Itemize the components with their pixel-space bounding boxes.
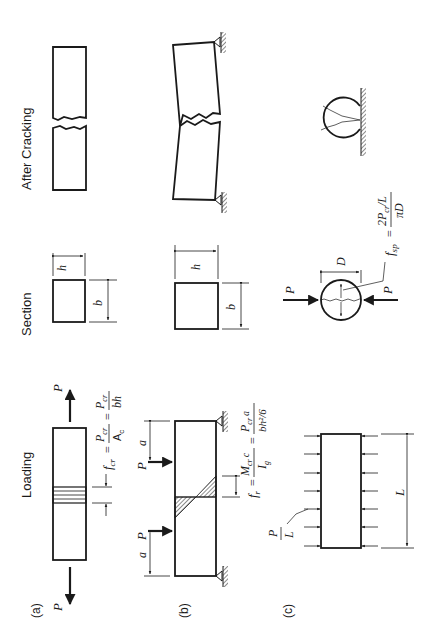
svg-text:Ig: Ig <box>255 461 271 470</box>
after-cracking-label: After Cracking <box>19 108 34 190</box>
split-cylinder-loading: L P L <box>266 434 414 548</box>
split-cylinder-cracked <box>321 88 366 156</box>
svg-text:Pcr: Pcr <box>93 427 109 443</box>
svg-text:bh: bh <box>110 396 124 408</box>
length-l-label: L <box>392 489 407 497</box>
load-p-label: P <box>380 286 395 295</box>
header-loading: Loading <box>19 452 34 498</box>
row-label-b: (b) <box>177 603 191 618</box>
svg-text:Ac: Ac <box>111 430 126 441</box>
svg-text:=: = <box>101 446 115 453</box>
load-p-label: P <box>282 286 297 295</box>
svg-text:Pcr: Pcr <box>93 394 109 410</box>
svg-text:πD: πD <box>392 203 406 218</box>
distributed-load-arrows-left <box>304 436 320 546</box>
section-label: Section <box>19 293 34 336</box>
row-label-a: (a) <box>29 603 43 618</box>
svg-text:Pcra: Pcra <box>238 411 254 433</box>
span-a-label: a <box>135 440 149 446</box>
header-after-cracking: After Cracking <box>19 108 34 190</box>
svg-text:(b): (b) <box>177 603 191 618</box>
flexure-loading-specimen: P P a a <box>134 411 240 587</box>
flexure-section: h b <box>175 245 249 329</box>
svg-text:(c): (c) <box>281 604 295 618</box>
svg-text:(a): (a) <box>29 603 43 618</box>
support-pin-top <box>214 32 226 53</box>
tension-equation: fcr = Pcr Ac = Pcr bh <box>93 391 126 470</box>
svg-text:=: = <box>246 479 260 486</box>
svg-text:bh²/6: bh²/6 <box>256 409 268 432</box>
split-cylinder-equation: fsp = 2Pcr/L πD <box>375 192 406 256</box>
section-a-h-label: h <box>55 265 69 271</box>
loading-label: Loading <box>19 452 34 498</box>
section-b-b-label: b <box>224 304 238 310</box>
figure-canvas: After Cracking Section Loading (a) (b) (… <box>0 0 421 638</box>
tension-cracked-specimen <box>53 47 86 190</box>
svg-text:fcr: fcr <box>100 458 117 470</box>
svg-text:P: P <box>266 529 280 538</box>
flexure-equation: fr = Mcrc Ig = Pcra bh²/6 <box>238 403 271 498</box>
svg-text:fr: fr <box>245 490 262 498</box>
svg-text:2Pcr/L: 2Pcr/L <box>375 196 391 226</box>
load-p-label: P <box>134 532 149 541</box>
svg-text:=: = <box>383 230 397 237</box>
distributed-load-arrows-right <box>362 436 378 546</box>
section-b-h-label: h <box>189 264 203 270</box>
load-p-label: P <box>134 462 149 471</box>
span-a-label: a <box>135 552 149 558</box>
diameter-d-label: D <box>334 257 348 267</box>
row-label-c: (c) <box>281 604 295 618</box>
load-p-label: P <box>50 384 65 393</box>
tension-section: h b <box>53 253 117 322</box>
header-section: Section <box>19 293 34 336</box>
section-a-b-label: b <box>91 300 105 306</box>
svg-text:=: = <box>246 437 260 444</box>
svg-text:L: L <box>282 531 296 539</box>
svg-text:Mcrc: Mcrc <box>238 452 254 477</box>
load-p-label: P <box>50 603 65 612</box>
svg-text:fsp: fsp <box>382 244 399 256</box>
support-pin-bottom <box>215 192 227 213</box>
svg-text:=: = <box>101 413 115 420</box>
distributed-load-label: P L <box>266 527 296 540</box>
split-cylinder-section: P P D <box>282 257 398 320</box>
flexure-cracked-specimen <box>173 42 220 200</box>
